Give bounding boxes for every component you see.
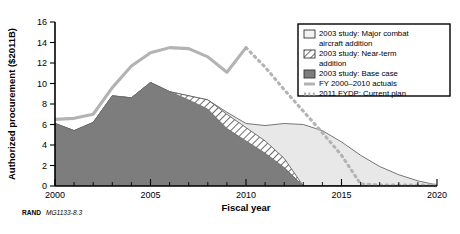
- y-tick-label-10: 10: [37, 79, 47, 89]
- y-tick-label-6: 6: [42, 120, 47, 130]
- x-axis-title: Fiscal year: [221, 202, 270, 213]
- x-tick-label-2020: 2020: [427, 190, 447, 200]
- source-note-prefix: RAND: [22, 209, 41, 216]
- legend-label-0-line2: aircraft addition: [319, 39, 372, 48]
- legend-label-1-line2: addition: [319, 59, 346, 68]
- source-note-id: MG1133-8.3: [46, 209, 82, 216]
- y-tick-label-8: 8: [42, 99, 47, 109]
- legend-label-2: 2003 study: Base case: [319, 69, 398, 78]
- legend-swatch-near-term-addition: [304, 50, 315, 58]
- chart-legend: 2003 study: Major combataircraft additio…: [298, 24, 450, 98]
- legend-label-4: 2011 FYDP: Current plan: [319, 89, 406, 98]
- figure-container: 0246810121416 20002005201020152020 Autho…: [0, 0, 460, 234]
- legend-label-1: 2003 study: Near-term: [319, 49, 397, 58]
- y-tick-label-4: 4: [42, 140, 47, 150]
- legend-label-0: 2003 study: Major combat: [319, 29, 410, 38]
- x-tick-label-2015: 2015: [331, 190, 351, 200]
- x-tick-label-2005: 2005: [140, 190, 160, 200]
- y-tick-label-12: 12: [37, 58, 47, 68]
- y-axis-title: Authorized procurement ($2011B): [6, 28, 17, 180]
- x-tick-label-2000: 2000: [45, 190, 65, 200]
- y-tick-label-14: 14: [37, 38, 47, 48]
- legend-label-3: FY 2000–2010 actuals: [319, 79, 397, 88]
- x-tick-label-2010: 2010: [236, 190, 256, 200]
- chart-svg: 0246810121416 20002005201020152020 Autho…: [0, 0, 460, 234]
- y-tick-label-16: 16: [37, 17, 47, 27]
- legend-swatch-base-case: [304, 70, 315, 78]
- source-note: RAND MG1133-8.3: [22, 209, 82, 216]
- legend-swatch-major-combat-aircraft-addition: [304, 30, 315, 38]
- y-tick-label-2: 2: [42, 161, 47, 171]
